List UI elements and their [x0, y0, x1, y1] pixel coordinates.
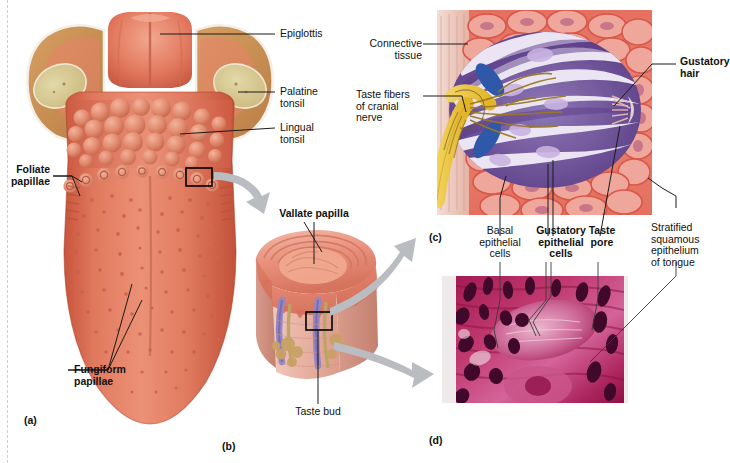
- panel-label-b: (b): [222, 440, 235, 452]
- panel-label-d: (d): [429, 434, 442, 446]
- label-basal-epithelial-cells: Basal epithelial cells: [470, 225, 530, 260]
- label-taste-bud: Taste bud: [278, 406, 358, 418]
- panel-c-artwork: [437, 10, 656, 222]
- label-taste-pore: Taste pore: [580, 225, 624, 248]
- label-taste-fibers-of-cranial-nerve: Taste fibers of cranial nerve: [356, 89, 410, 124]
- panel-a-artwork: [27, 12, 273, 424]
- panel-label-c: (c): [429, 231, 442, 243]
- label-epiglottis: Epiglottis: [280, 28, 323, 40]
- label-vallate-papilla: Vallate papilla: [246, 208, 382, 220]
- label-palatine-tonsil: Palatine tonsil: [280, 86, 318, 109]
- label-fungiform-papillae: Fungiform papillae: [74, 364, 126, 387]
- panel-label-a: (a): [24, 414, 37, 426]
- panel-d-artwork: [442, 276, 628, 406]
- label-connective-tissue: Connective tissue: [352, 38, 422, 61]
- label-lingual-tonsil: Lingual tonsil: [280, 122, 314, 145]
- label-gustatory-hair: Gustatory hair: [680, 56, 730, 79]
- label-foliate-papillae: Foliate papillae: [0, 164, 50, 187]
- median-sulcus: [150, 176, 151, 356]
- label-stratified-squamous-epithelium: Stratified squamous epithelium of tongue: [651, 222, 699, 268]
- vallate-papilla-dome: [279, 248, 347, 284]
